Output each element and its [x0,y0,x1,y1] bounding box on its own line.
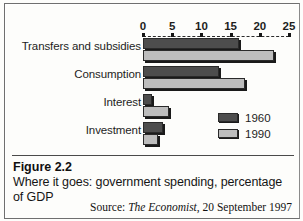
source-publication: The Economist [128,201,197,213]
category-label: Interest [10,96,141,108]
category-label: Transfers and subsidies [10,40,141,52]
source-date: , 20 September 1997 [197,201,292,213]
legend-item: 1960 [218,111,294,124]
figure-source: Source: The Economist, 20 September 1997 [90,201,292,213]
axis-tick-label-20: 20 [253,20,266,32]
figure-container: Transfers and subsidiesConsumptionIntere… [0,0,303,221]
legend-swatch-1960-icon [218,113,238,122]
bar-1990 [143,50,274,61]
axis-tick-label-10: 10 [195,20,208,32]
legend-label-1960: 1960 [245,112,271,124]
axis-tick-label-0: 0 [140,20,146,32]
axis-tick-mark-5 [171,33,174,37]
figure-caption: Figure 2.2 Where it goes: government spe… [13,160,288,204]
axis-tick-mark-25 [288,33,291,37]
bar-1960 [143,94,152,105]
caption-divider [12,155,294,156]
source-prefix: Source: [90,201,125,213]
legend-label-1990: 1990 [245,128,271,140]
axis-tick-label-25: 25 [283,20,296,32]
bar-1990 [143,78,245,89]
chart-plot-area: Transfers and subsidiesConsumptionIntere… [0,0,303,150]
axis-tick-label-5: 5 [169,20,175,32]
chart-legend: 1960 1990 [218,111,294,143]
bar-1990 [143,134,158,145]
category-label: Investment [10,124,141,136]
bar-1960 [143,66,219,77]
axis-tick-mark-15 [230,33,233,37]
category-axis-labels: Transfers and subsidiesConsumptionIntere… [10,34,141,146]
bar-1990 [143,106,169,117]
category-label: Consumption [10,68,141,80]
figure-number: Figure 2.2 [13,160,288,175]
axis-tick-mark-10 [200,33,203,37]
bar-1960 [143,38,239,49]
axis-tick-mark-20 [259,33,262,37]
figure-description: Where it goes: government spending, perc… [13,175,288,204]
axis-tick-mark-0 [142,33,145,37]
bar-1960 [143,122,163,133]
legend-item: 1990 [218,127,294,140]
value-axis-line [143,36,289,37]
axis-tick-label-15: 15 [224,20,237,32]
legend-swatch-1990-icon [218,129,238,138]
